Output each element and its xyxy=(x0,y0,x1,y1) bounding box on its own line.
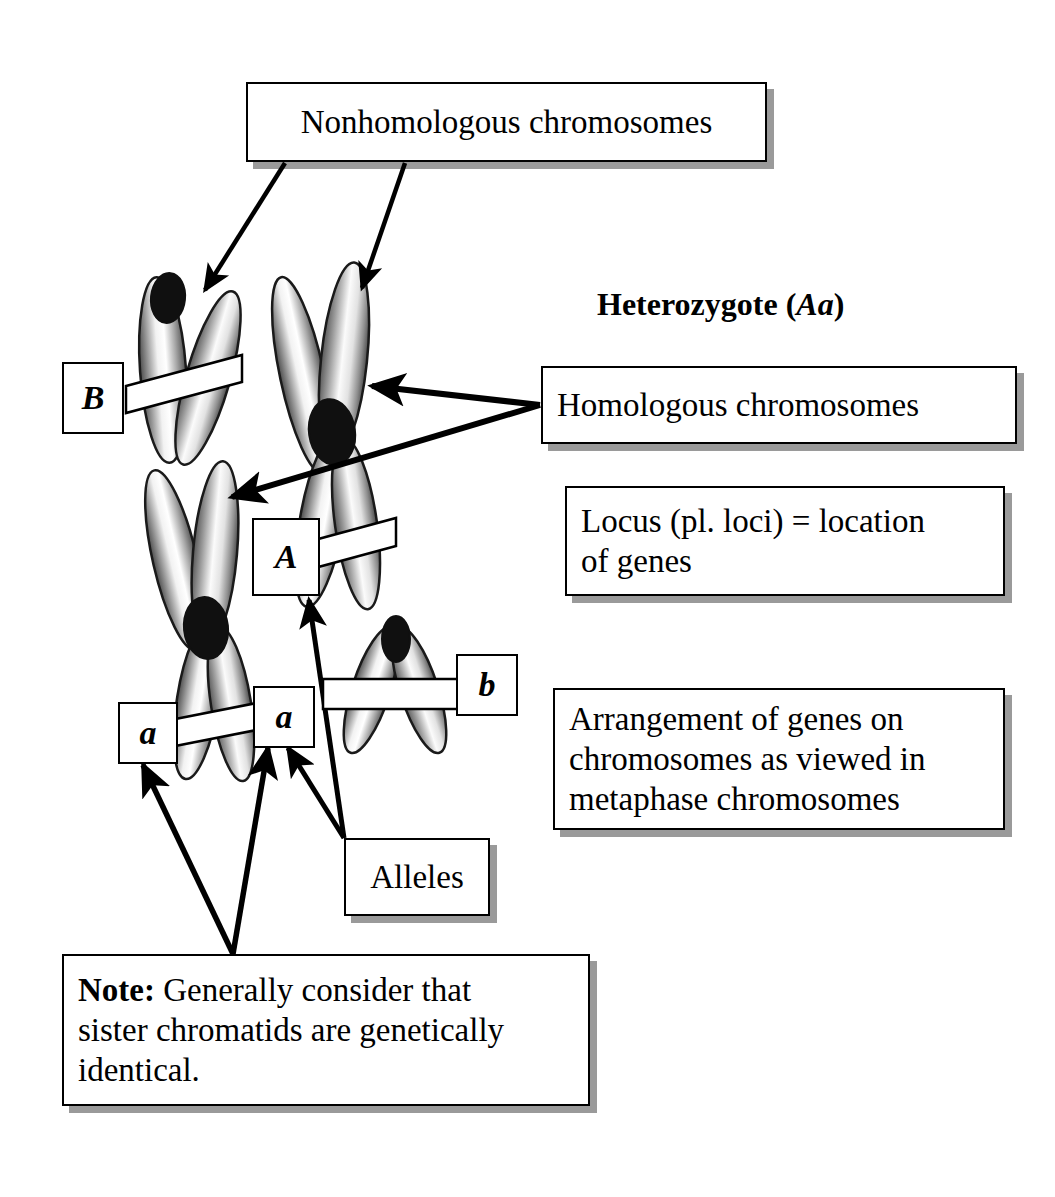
allele-label-a-right-text: a xyxy=(276,698,293,736)
allele-label-B[interactable]: B xyxy=(62,362,124,434)
allele-label-a-left[interactable]: a xyxy=(118,702,178,764)
allele-label-a-left-text: a xyxy=(140,714,157,752)
allele-label-b-text: b xyxy=(479,666,496,704)
locus-band-b xyxy=(323,679,459,709)
allele-label-A[interactable]: A xyxy=(252,518,320,596)
allele-label-a-right[interactable]: a xyxy=(253,686,315,748)
allele-label-b[interactable]: b xyxy=(456,654,518,716)
allele-label-B-text: B xyxy=(82,379,105,417)
allele-label-A-text: A xyxy=(275,538,298,576)
locus-band-B xyxy=(126,355,242,413)
